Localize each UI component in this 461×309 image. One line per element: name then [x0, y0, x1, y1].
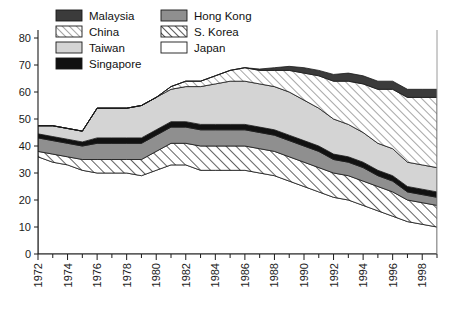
x-tick-label: 1976	[91, 263, 103, 287]
chart-figure: 01020304050607080 1972197419761978198019…	[0, 0, 461, 309]
y-tick-label: 40	[19, 140, 31, 152]
x-tick-label: 1980	[150, 263, 162, 287]
x-tick-label: 1982	[180, 263, 192, 287]
x-tick-label: 1986	[239, 263, 251, 287]
x-tick-label: 1974	[62, 263, 74, 287]
legend-item[interactable]: Hong Kong	[161, 10, 252, 22]
x-tick-label: 1978	[121, 263, 133, 287]
legend-item[interactable]: S. Korea	[161, 26, 239, 38]
legend-item[interactable]: Singapore	[56, 58, 141, 70]
y-tick-label: 0	[25, 248, 31, 260]
stacked-area-chart: 01020304050607080 1972197419761978198019…	[0, 0, 461, 309]
y-tick-label: 80	[19, 32, 31, 44]
y-tick-label: 20	[19, 194, 31, 206]
legend-swatch-china	[56, 26, 82, 37]
legend-swatch-malaysia	[56, 10, 82, 21]
legend-item[interactable]: Japan	[161, 42, 225, 54]
y-tick-label: 60	[19, 86, 31, 98]
legend-swatch-hong-kong	[161, 10, 187, 21]
x-tick-label: 1992	[328, 263, 340, 287]
legend-label: Malaysia	[89, 10, 135, 22]
x-tick-label: 1996	[387, 263, 399, 287]
x-tick-label: 1998	[416, 263, 428, 287]
legend-label: China	[89, 26, 120, 38]
y-tick-label: 50	[19, 113, 31, 125]
x-tick-label: 1988	[268, 263, 280, 287]
x-tick-label: 1990	[298, 263, 310, 287]
legend-item[interactable]: Malaysia	[56, 10, 135, 22]
legend-swatch-japan	[161, 42, 187, 53]
legend-swatch-singapore	[56, 58, 82, 69]
legend-label: Singapore	[89, 58, 141, 70]
x-tick-label: 1972	[32, 263, 44, 287]
y-tick-label: 70	[19, 59, 31, 71]
y-tick-label: 10	[19, 221, 31, 233]
legend-item[interactable]: Taiwan	[56, 42, 125, 54]
x-tick-label: 1984	[209, 263, 221, 287]
x-tick-label: 1994	[357, 263, 369, 287]
legend-swatch-s-korea	[161, 26, 187, 37]
legend-swatch-taiwan	[56, 42, 82, 53]
legend-label: Japan	[194, 42, 225, 54]
legend-label: Taiwan	[89, 42, 125, 54]
y-tick-label: 30	[19, 167, 31, 179]
legend-label: Hong Kong	[194, 10, 252, 22]
legend-label: S. Korea	[194, 26, 239, 38]
